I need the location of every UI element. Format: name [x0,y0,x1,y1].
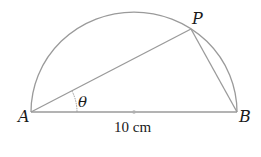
center-point [132,110,136,114]
angle-arc [72,91,77,112]
label-B: B [238,107,251,126]
semicircle-arc [31,12,237,112]
label-P: P [191,9,203,28]
chord-AP [31,29,191,112]
label-theta: θ [78,93,87,111]
label-A: A [16,107,30,126]
label-measurement: 10 cm [114,119,151,135]
semicircle-diagram: A B P θ 10 cm [0,0,261,157]
chord-PB [191,29,237,112]
